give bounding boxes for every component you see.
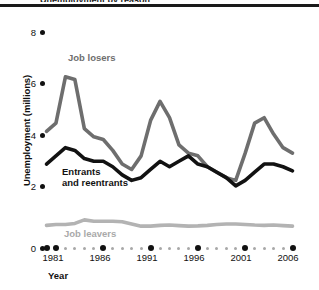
x-axis-origin-dot [44,245,50,251]
x-tick-label-1981: 1981 [33,252,73,263]
series-line-job-leavers [47,220,293,226]
x-tick-dot-minor-1988 [121,247,124,250]
x-tick-dot-minor-2004 [272,247,275,250]
series-label-job-leavers: Job leavers [64,228,116,239]
series-label-job-losers: Job losers [68,52,116,63]
x-tick-dot-minor-2002 [253,247,256,250]
x-tick-dot-minor-2003 [263,247,266,250]
x-tick-dot-minor-1995 [187,247,190,250]
x-tick-label-1986: 1986 [80,252,120,263]
x-tick-dot-minor-1984 [83,247,86,250]
x-tick-label-2001: 2001 [221,252,261,263]
x-tick-dot-minor-1985 [92,247,95,250]
x-tick-dot-minor-1987 [111,247,114,250]
x-tick-dot-minor-1992 [159,247,162,250]
x-tick-dot-minor-1997 [206,247,209,250]
x-tick-dot-minor-1989 [130,247,133,250]
x-tick-dot-minor-2005 [282,247,285,250]
x-tick-label-2006: 2006 [268,252,308,263]
x-tick-dot-minor-2000 [234,247,237,250]
x-tick-dot-minor-1982 [64,247,67,250]
x-tick-dot-minor-1990 [140,247,143,250]
series-label-entrants-line1: Entrants [62,166,101,177]
x-tick-dot-minor-1999 [225,247,228,250]
series-label-entrants: Entrants and reentrants [62,166,128,188]
x-tick-label-1991: 1991 [127,252,167,263]
series-label-entrants-line2: and reentrants [62,177,128,188]
chart-figure: Unemployment by reason Unemployment (mil… [0,0,319,290]
x-tick-dot-minor-1998 [215,247,218,250]
x-tick-label-1996: 1996 [174,252,214,263]
x-tick-dot-major-1996 [195,245,201,251]
x-tick-dot-major-1981 [53,245,59,251]
x-tick-dot-major-1991 [148,245,154,251]
x-tick-dot-major-2006 [290,245,296,251]
x-tick-dot-minor-1993 [168,247,171,250]
